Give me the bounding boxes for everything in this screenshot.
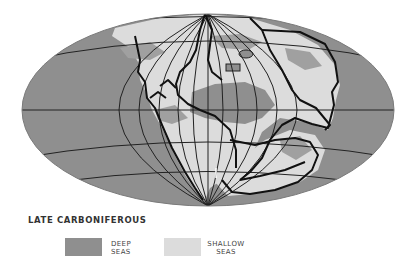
- legend-label-shallow-seas: SHALLOW SEAS: [204, 240, 248, 256]
- legend-label-deep-seas: DEEP SEAS: [111, 240, 131, 256]
- paleogeographic-map: [0, 0, 418, 215]
- legend-swatch-deep-seas: [65, 238, 102, 256]
- legend-swatch-shallow-seas: [164, 238, 201, 256]
- map-title: LATE CARBONIFEROUS: [28, 215, 146, 225]
